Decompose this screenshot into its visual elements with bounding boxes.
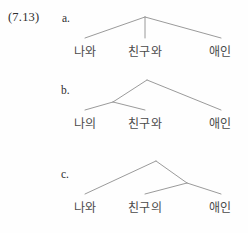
item-label-a: a. [62,12,70,24]
item-label-c: c. [61,168,69,180]
branch-c-root-left [85,161,156,194]
branch-c-inner-left [145,183,187,194]
leaf-a-2: 친구와 [128,42,162,60]
leaf-c-1: 나와 [74,198,97,216]
example-number: (7.13) [8,10,39,25]
branch-b-inner-left [85,102,113,110]
branch-c-inner-right [187,183,221,194]
branch-a-right [145,17,221,38]
leaf-c-3: 애인 [209,198,232,216]
branch-b-root-left [113,80,147,102]
branch-a-left [85,17,145,38]
branch-c-root-right [156,161,187,183]
leaf-b-3: 애인 [209,114,232,132]
branch-b-root-right [147,80,221,110]
item-label-b: b. [61,84,70,96]
document-page: (7.13) a. 나와 친구와 애인 b. 나의 친구와 애인 c. 나와 친… [0,0,248,233]
leaf-b-1: 나의 [74,114,97,132]
branch-b-inner-right [113,102,145,110]
leaf-a-1: 나와 [74,42,97,60]
leaf-c-2: 친구의 [128,198,162,216]
leaf-a-3: 애인 [209,42,232,60]
leaf-b-2: 친구와 [128,114,162,132]
